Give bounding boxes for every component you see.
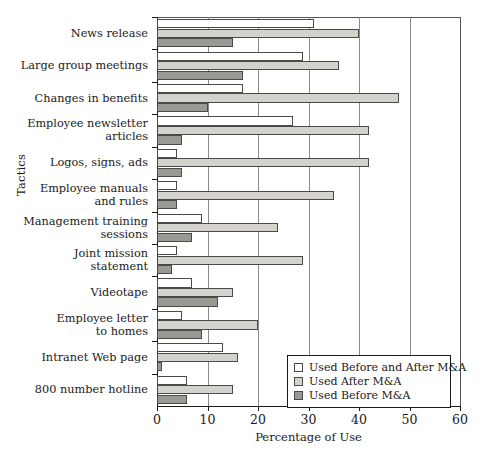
bar (157, 311, 182, 320)
x-axis-tick (460, 406, 461, 411)
category-row: Management training sessions (157, 212, 460, 244)
category-label: Large group meetings (0, 59, 148, 72)
legend-item: Used After M&A (294, 374, 444, 388)
category-label: News release (0, 27, 148, 40)
y-axis-tick (152, 114, 157, 115)
legend-swatch-used-before-icon (294, 391, 303, 400)
legend-label: Used Before M&A (309, 389, 411, 402)
bar (157, 330, 202, 339)
category-label: Employee manuals and rules (0, 182, 148, 208)
bar (157, 29, 359, 38)
x-axis-tick (208, 406, 209, 411)
x-axis-tick-label: 20 (238, 412, 278, 427)
category-label: Changes in benefits (0, 92, 148, 105)
bar (157, 158, 369, 167)
legend: Used Before and After M&A Used After M&A… (287, 355, 451, 408)
bar (157, 61, 339, 70)
legend-swatch-used-after-icon (294, 377, 303, 386)
legend-label: Used Before and After M&A (309, 361, 466, 374)
x-axis-title: Percentage of Use (157, 430, 460, 444)
x-axis-tick-label: 30 (289, 412, 329, 427)
y-axis-tick (152, 309, 157, 310)
bar (157, 181, 177, 190)
category-label: Employee newsletter articles (0, 117, 148, 143)
y-axis-tick (152, 49, 157, 50)
bar (157, 116, 293, 125)
y-axis-tick (152, 82, 157, 83)
bar (157, 71, 243, 80)
bar (157, 168, 182, 177)
x-axis-tick-label: 40 (339, 412, 379, 427)
x-axis-tick-label: 10 (188, 412, 228, 427)
category-label: Intranet Web page (0, 351, 148, 364)
category-row: News release (157, 17, 460, 49)
bar (157, 191, 334, 200)
legend-item: Used Before and After M&A (294, 360, 444, 374)
category-row: Changes in benefits (157, 82, 460, 114)
y-axis-tick (152, 147, 157, 148)
plot-right-border (460, 17, 461, 406)
bar (157, 265, 172, 274)
bar (157, 149, 177, 158)
bar (157, 200, 177, 209)
bar-chart: Tactics News releaseLarge group meetings… (0, 0, 488, 463)
y-axis-tick (152, 341, 157, 342)
category-row: Employee newsletter articles (157, 114, 460, 146)
bar (157, 126, 369, 135)
bar (157, 395, 187, 404)
bar (157, 214, 202, 223)
x-axis-tick-label: 50 (390, 412, 430, 427)
category-label: Logos, signs, ads (0, 156, 148, 169)
bar (157, 297, 218, 306)
y-axis-tick (152, 374, 157, 375)
bar (157, 385, 233, 394)
bar (157, 353, 238, 362)
legend-item: Used Before M&A (294, 388, 444, 402)
category-label: Management training sessions (0, 215, 148, 241)
category-row: Large group meetings (157, 49, 460, 81)
bar (157, 135, 182, 144)
legend-swatch-used-before-and-after-icon (294, 363, 303, 372)
y-axis-tick (152, 179, 157, 180)
bar (157, 19, 314, 28)
bar (157, 233, 192, 242)
bar (157, 343, 223, 352)
category-label: Videotape (0, 286, 148, 299)
category-row: Employee letter to homes (157, 309, 460, 341)
bar (157, 84, 243, 93)
bar (157, 223, 278, 232)
x-axis-tick (157, 406, 158, 411)
category-row: Employee manuals and rules (157, 179, 460, 211)
category-label: 800 number hotline (0, 383, 148, 396)
x-axis-tick-label: 0 (137, 412, 177, 427)
bar (157, 278, 192, 287)
x-axis-tick (258, 406, 259, 411)
bar (157, 256, 303, 265)
legend-label: Used After M&A (309, 375, 401, 388)
y-axis-tick (152, 17, 157, 18)
category-row: Logos, signs, ads (157, 147, 460, 179)
category-label: Employee letter to homes (0, 312, 148, 338)
bar (157, 52, 303, 61)
category-row: Joint mission statement (157, 244, 460, 276)
y-axis-tick (152, 212, 157, 213)
bar (157, 362, 162, 371)
bar (157, 288, 233, 297)
bar (157, 320, 258, 329)
bar (157, 246, 177, 255)
category-label: Joint mission statement (0, 247, 148, 273)
y-axis-tick (152, 244, 157, 245)
x-axis-tick-label: 60 (440, 412, 480, 427)
bar (157, 93, 399, 102)
bar (157, 376, 187, 385)
y-axis-tick (152, 276, 157, 277)
category-row: Videotape (157, 276, 460, 308)
bar (157, 103, 208, 112)
bar (157, 38, 233, 47)
